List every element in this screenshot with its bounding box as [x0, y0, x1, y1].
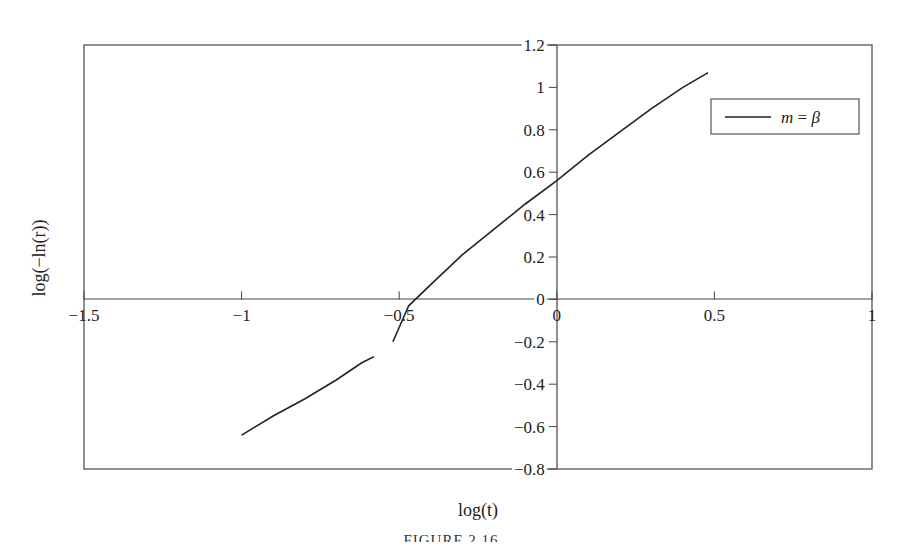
data-line-m-beta [242, 73, 708, 436]
y-tick-label: 1 [536, 78, 545, 97]
y-tick-label: 0.4 [524, 206, 546, 225]
y-ticks: 1.210.80.60.40.20−0.2−0.4−0.6−0.8 [512, 36, 557, 479]
y-tick-label: −0.4 [514, 375, 545, 394]
y-tick-label: −0.2 [514, 333, 545, 352]
chart: −1.5−1−0.500.51 1.210.80.60.40.20−0.2−0.… [0, 0, 902, 530]
figure-caption: FIGURE 2.16 [0, 532, 902, 542]
y-tick-label: 0.2 [524, 248, 545, 267]
y-tick-label: −0.6 [514, 418, 545, 437]
x-tick-label: −0.5 [384, 306, 415, 325]
legend-label: m = β [781, 108, 820, 127]
x-axis-title: log(t) [458, 500, 498, 521]
y-tick-label: 0.6 [524, 163, 545, 182]
x-tick-label: −1.5 [69, 306, 100, 325]
x-tick-label: 0.5 [704, 306, 725, 325]
y-tick-label: 0.8 [524, 121, 545, 140]
y-tick-label: −0.8 [514, 460, 545, 479]
x-tick-label: 1 [868, 306, 877, 325]
y-axis-title: log(−ln(r)) [29, 219, 50, 296]
x-ticks: −1.5−1−0.500.51 [69, 291, 877, 325]
x-tick-label: 0 [553, 306, 562, 325]
legend: m = β [711, 99, 859, 134]
y-tick-label: 0 [536, 290, 545, 309]
y-tick-label: 1.2 [524, 36, 545, 55]
x-tick-label: −1 [233, 306, 251, 325]
